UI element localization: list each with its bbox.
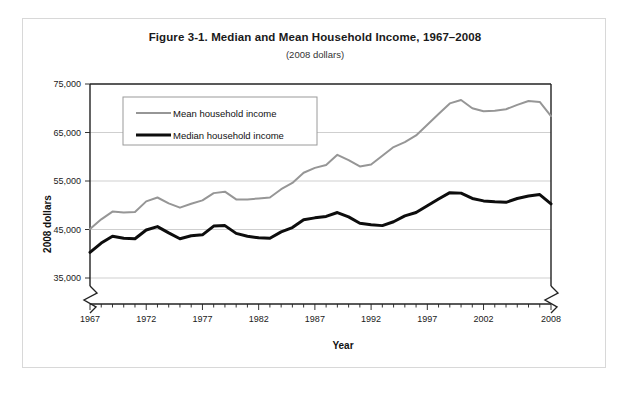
legend: Mean household incomeMedian household in…	[123, 97, 317, 145]
x-axis-tick-labels: 196719721977198219871992199720022008	[80, 314, 561, 324]
x-axis-tick-label: 1992	[361, 314, 381, 324]
x-axis-tick-label: 1987	[305, 314, 325, 324]
x-axis-tick-label: 1982	[249, 314, 269, 324]
legend-label: Median household income	[173, 130, 284, 141]
x-axis-tick-label: 1997	[417, 314, 437, 324]
x-axis-tick-label: 1967	[80, 314, 100, 324]
y-axis-tick-label: 75,000	[53, 79, 81, 89]
x-axis-ticks	[90, 304, 551, 310]
y-axis-tick-label: 65,000	[53, 128, 81, 138]
y-axis-tick-label: 55,000	[53, 176, 81, 186]
x-axis-tick-label: 2008	[541, 314, 561, 324]
line-chart: 75,00065,00055,00045,00035,000 196719721…	[23, 19, 607, 369]
legend-label: Mean household income	[173, 108, 277, 119]
x-axis-tick-label: 1977	[192, 314, 212, 324]
y-axis-tick-label: 35,000	[53, 273, 81, 283]
x-axis-tick-label: 2002	[474, 314, 494, 324]
figure-frame: Figure 3-1. Median and Mean Household In…	[22, 18, 606, 368]
y-axis-tick-label: 45,000	[53, 225, 81, 235]
y-axis-title: 2008 dollars	[42, 195, 53, 253]
series-line	[90, 193, 551, 253]
x-axis-title: Year	[332, 340, 353, 351]
y-axis-tick-labels: 75,00065,00055,00045,00035,000	[53, 79, 81, 283]
x-axis-tick-label: 1972	[136, 314, 156, 324]
